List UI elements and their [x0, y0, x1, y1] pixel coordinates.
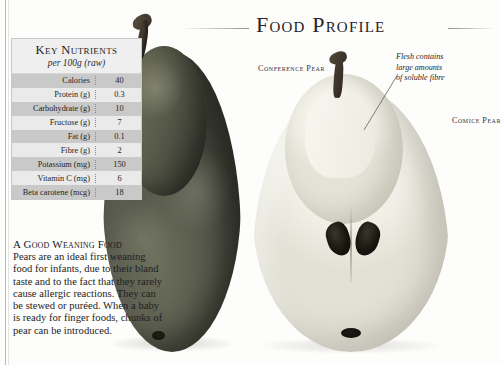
nutrient-value: 18 [96, 188, 141, 197]
nutrient-label: Protein (g) [12, 90, 96, 99]
comice-pear-label: Comice Pear [452, 115, 501, 126]
table-row: Fat (g)0.1 [12, 130, 141, 144]
nutrient-value: 7 [96, 118, 141, 127]
weaning-heading: A Good Weaning Food [13, 238, 163, 250]
table-row: Carbohydrate (g)10 [12, 102, 141, 116]
nutrient-value: 0.1 [96, 132, 141, 141]
header-rule-left [181, 28, 249, 29]
nutrient-label: Beta carotene (mcg) [12, 188, 96, 197]
food-profile-page: Food Profile Key Nutrients per 100g (raw… [0, 0, 502, 365]
weaning-body-text: Pears are an ideal first weaning food fo… [13, 251, 163, 337]
nutrient-label: Vitamin C (mg) [12, 174, 96, 183]
table-row: Fibre (g)2 [12, 143, 141, 157]
page-title: Food Profile [256, 12, 385, 38]
nutrient-label: Potassium (mg) [12, 160, 96, 169]
comice-pear-half-neck [305, 88, 375, 178]
nutrient-label: Fibre (g) [12, 146, 96, 155]
table-row: Beta carotene (mcg)18 [12, 185, 141, 199]
annotation-line-1: Flesh contains [396, 52, 445, 63]
nutrient-value: 10 [96, 104, 141, 113]
flesh-fibre-annotation: Flesh contains large amounts of soluble … [396, 52, 445, 84]
table-row: Vitamin C (mg)6 [12, 171, 141, 185]
nutrient-value: 150 [96, 160, 141, 169]
annotation-line-2: large amounts [396, 63, 445, 74]
weaning-section: A Good Weaning Food Pears are an ideal f… [13, 238, 163, 337]
key-nutrients-subtitle: per 100g (raw) [12, 57, 141, 69]
table-row: Calories40 [12, 74, 141, 88]
nutrient-label: Carbohydrate (g) [12, 104, 96, 113]
comice-pear-label-text: Comice Pear [452, 116, 501, 125]
nutrient-value: 6 [96, 174, 141, 183]
nutrient-value: 0.3 [96, 90, 141, 99]
conference-pear-label: Conference Pear [258, 63, 325, 74]
nutrient-label: Fructose (g) [12, 118, 96, 127]
page-header: Food Profile [0, 6, 502, 38]
conference-pear-label-text: Conference Pear [258, 64, 325, 73]
header-rule-right [448, 28, 496, 29]
nutrient-label: Calories [12, 76, 96, 85]
table-row: Potassium (mg)150 [12, 157, 141, 171]
annotation-line-3: of soluble fibre [396, 73, 445, 84]
nutrient-value: 40 [96, 76, 141, 85]
table-row: Protein (g)0.3 [12, 88, 141, 102]
table-row: Fructose (g)7 [12, 116, 141, 130]
comice-pear-calyx [341, 328, 361, 338]
nutrient-label: Fat (g) [12, 132, 96, 141]
key-nutrients-table-header: Key Nutrients per 100g (raw) [12, 39, 141, 74]
key-nutrients-table: Key Nutrients per 100g (raw) Calories40P… [11, 38, 142, 200]
nutrient-value: 2 [96, 146, 141, 155]
key-nutrients-rows: Calories40Protein (g)0.3Carbohydrate (g)… [12, 74, 141, 199]
key-nutrients-title: Key Nutrients [12, 43, 141, 57]
